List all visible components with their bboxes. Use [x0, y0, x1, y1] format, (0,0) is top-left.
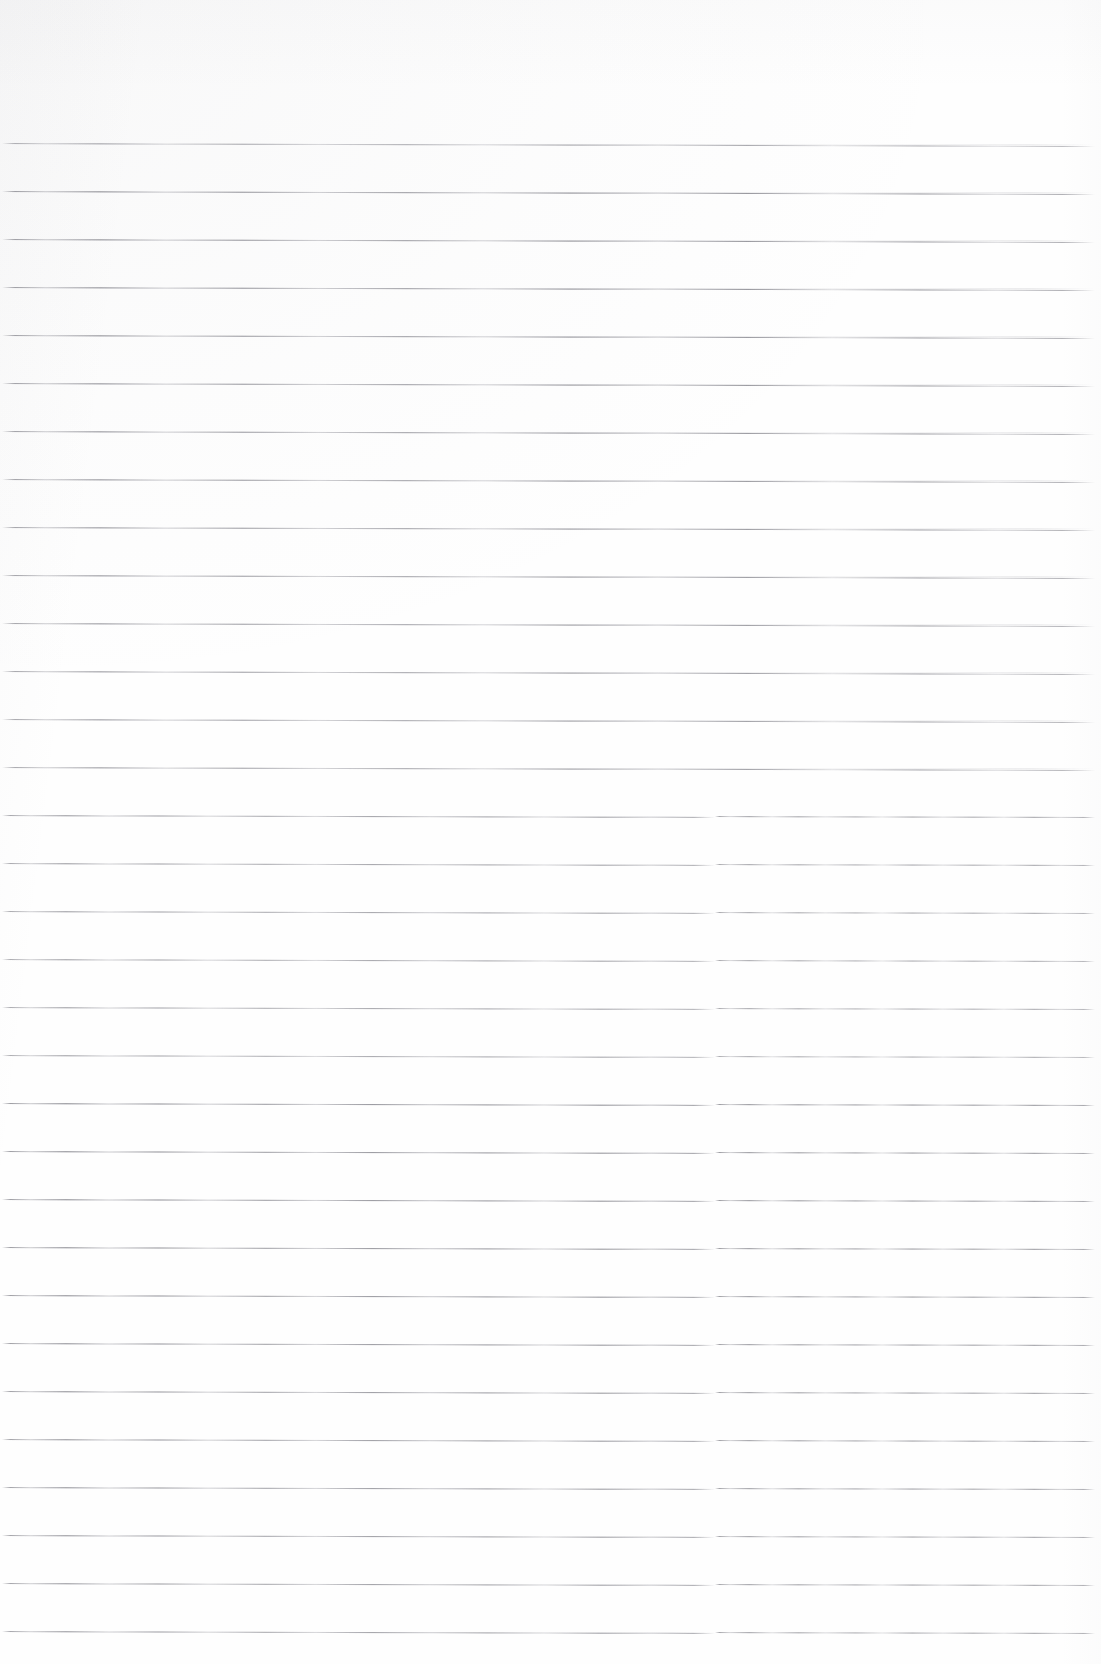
ruled-line-segment	[715, 1200, 1095, 1202]
ruled-line-segment	[715, 816, 1095, 818]
ruled-lines-layer	[0, 0, 1101, 1664]
ruled-line	[0, 527, 1101, 529]
ruled-line	[0, 1439, 1101, 1441]
ruled-line	[0, 671, 1101, 673]
ruled-line	[0, 1343, 1101, 1345]
ruled-line-bleed	[2, 432, 1095, 433]
ruled-line	[0, 143, 1101, 145]
ruled-line-bleed	[2, 1584, 715, 1585]
ruled-line-segment	[715, 1536, 1095, 1538]
ruled-line-bleed	[2, 720, 1095, 721]
ruled-line-segment	[715, 1104, 1095, 1106]
ruled-line-bleed	[2, 528, 1095, 529]
ruled-line-bleed	[2, 1392, 715, 1393]
ruled-line-bleed	[2, 1104, 715, 1105]
ruled-line-bleed	[2, 1344, 715, 1345]
ruled-line-segment	[715, 1152, 1095, 1154]
ruled-line-segment	[715, 1392, 1095, 1394]
ruled-line-bleed	[2, 960, 715, 961]
ruled-line-segment	[715, 1344, 1095, 1346]
ruled-line	[0, 863, 1101, 865]
ruled-line	[0, 911, 1101, 913]
ruled-line-segment	[715, 1440, 1095, 1442]
ruled-line-bleed	[2, 1200, 715, 1201]
ruled-line	[0, 1247, 1101, 1249]
scanned-page	[0, 0, 1101, 1664]
ruled-line-segment	[715, 864, 1095, 866]
ruled-line	[0, 383, 1101, 385]
ruled-line-bleed	[2, 672, 1095, 673]
ruled-line-bleed	[2, 1536, 715, 1537]
ruled-line-bleed	[2, 864, 715, 865]
ruled-line	[0, 1007, 1101, 1009]
ruled-line	[0, 719, 1101, 721]
ruled-line	[0, 1583, 1101, 1585]
ruled-line-segment	[715, 1008, 1095, 1010]
ruled-line	[0, 767, 1101, 769]
ruled-line-bleed	[2, 1056, 715, 1057]
ruled-line	[0, 239, 1101, 241]
ruled-line	[0, 1487, 1101, 1489]
ruled-line-segment	[715, 1248, 1095, 1250]
ruled-line	[0, 287, 1101, 289]
ruled-line	[0, 815, 1101, 817]
ruled-line-bleed	[2, 912, 715, 913]
ruled-line-bleed	[2, 288, 1095, 289]
ruled-line-bleed	[2, 1296, 715, 1297]
ruled-line	[0, 479, 1101, 481]
ruled-line	[0, 623, 1101, 625]
ruled-line-segment	[715, 1296, 1095, 1298]
ruled-line-segment	[715, 1584, 1095, 1586]
ruled-line-bleed	[2, 1008, 715, 1009]
ruled-line-bleed	[2, 816, 715, 817]
ruled-line-segment	[715, 1632, 1095, 1634]
ruled-line-bleed	[2, 1488, 715, 1489]
ruled-line-bleed	[2, 1248, 715, 1249]
ruled-line	[0, 335, 1101, 337]
ruled-line-segment	[715, 1056, 1095, 1058]
ruled-line-segment	[715, 1488, 1095, 1490]
ruled-line	[0, 1055, 1101, 1057]
ruled-line-segment	[715, 912, 1095, 914]
ruled-line	[0, 1391, 1101, 1393]
ruled-line-bleed	[2, 1152, 715, 1153]
ruled-line-bleed	[2, 1440, 715, 1441]
ruled-line-bleed	[2, 384, 1095, 385]
ruled-line	[0, 1103, 1101, 1105]
ruled-line	[0, 575, 1101, 577]
ruled-line-bleed	[2, 576, 1095, 577]
ruled-line-bleed	[2, 240, 1095, 241]
ruled-line	[0, 1151, 1101, 1153]
ruled-line	[0, 1295, 1101, 1297]
ruled-line	[0, 1199, 1101, 1201]
ruled-line	[0, 1535, 1101, 1537]
ruled-line-bleed	[2, 768, 1095, 769]
ruled-line-bleed	[2, 336, 1095, 337]
ruled-line-bleed	[2, 1632, 715, 1633]
ruled-line	[0, 959, 1101, 961]
ruled-line	[0, 1631, 1101, 1633]
ruled-line-segment	[715, 960, 1095, 962]
ruled-line-bleed	[2, 624, 1095, 625]
ruled-line-bleed	[2, 480, 1095, 481]
ruled-line-bleed	[2, 192, 1095, 193]
ruled-line-bleed	[2, 144, 1095, 145]
ruled-line	[0, 431, 1101, 433]
ruled-line	[0, 191, 1101, 193]
